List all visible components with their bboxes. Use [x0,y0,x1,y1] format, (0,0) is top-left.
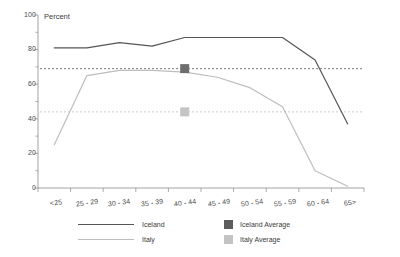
x-tick-label-7: 55 - 59 [267,197,304,209]
legend-item-iceland[interactable]: Iceland [78,219,165,230]
x-tick-label-9: 65> [332,197,369,209]
y-tick-label-100: 100 [14,11,36,18]
x-tick-label-1: 25 - 29 [69,197,106,209]
legend-item-italy-average[interactable]: Italy Average [224,234,290,245]
legend-label-italy: Italy [142,236,155,243]
legend-label-iceland-average: Iceland Average [240,221,290,228]
x-tick-label-5: 45 - 49 [201,197,238,209]
legend-swatch-icon-iceland-average [224,220,233,229]
legend-averages: Iceland Average Italy Average [224,219,290,249]
legend-item-italy[interactable]: Italy [78,234,165,245]
x-tick-label-2: 30 - 34 [101,197,138,209]
legend-label-iceland: Iceland [142,221,165,228]
plot-area [0,0,400,257]
x-tick-label-4: 40 - 44 [167,197,204,209]
legend-item-iceland-average[interactable]: Iceland Average [224,219,290,230]
y-tick-label-20: 20 [14,149,36,156]
y-tick-label-80: 80 [14,45,36,52]
legend-label-italy-average: Italy Average [240,236,280,243]
legend-swatch-icon-italy-average [224,235,233,244]
average-reference-lines [40,69,362,112]
legend: Iceland Italy [78,219,165,249]
y-axis-title: Percent [44,12,70,21]
y-tick-label-40: 40 [14,115,36,122]
legend-line-icon-italy [78,239,134,240]
chart-container: Percent 100 80 60 40 20 0 <25 25 - 29 30… [0,0,400,257]
x-tick-label-6: 50 - 54 [234,197,271,209]
data-series [54,37,347,186]
axes [34,15,364,192]
x-tick-label-8: 60 - 64 [300,197,337,209]
x-tick-label-3: 35 - 39 [134,197,171,209]
legend-line-icon-iceland [78,224,134,225]
y-tick-label-60: 60 [14,80,36,87]
y-tick-label-0: 0 [14,184,36,191]
average-markers [180,64,189,116]
